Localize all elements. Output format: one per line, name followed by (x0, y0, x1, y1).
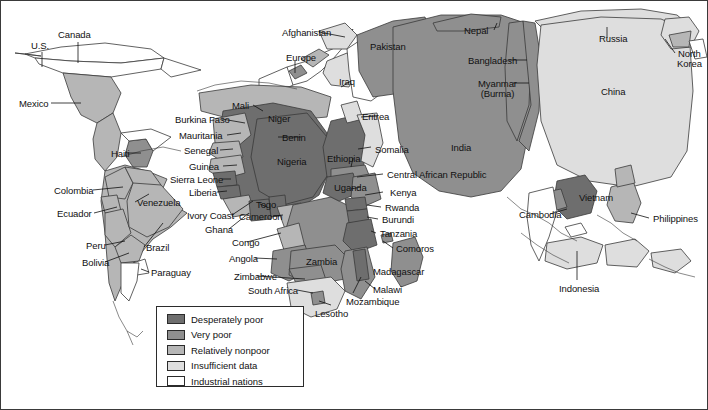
label-malawi: Malawi (373, 285, 402, 296)
label-venezuela: Venezuela (137, 198, 180, 209)
label-congo: Congo (232, 238, 260, 249)
legend-item-insufficient-data: Insufficient data (167, 359, 303, 374)
label-peru: Peru (86, 241, 106, 252)
legend-item-relatively-nonpoor: Relatively nonpoor (167, 343, 303, 358)
label-canada: Canada (58, 30, 91, 41)
label-zambia: Zambia (306, 257, 337, 268)
label-rwanda: Rwanda (385, 203, 419, 214)
label-angola: Angola (229, 254, 258, 265)
shape-rwanda (345, 197, 367, 211)
shape-us-tail (161, 58, 201, 77)
legend-label-industrial-nations: Industrial nations (191, 376, 263, 387)
label-pakistan: Pakistan (370, 42, 406, 53)
label-mexico: Mexico (19, 99, 49, 110)
legend-swatch-insufficient-data (167, 361, 185, 371)
cartogram-shapes (1, 1, 708, 410)
label-ethiopia: Ethiopia (327, 154, 361, 165)
shape-island-dots (565, 223, 587, 237)
label-somalia: Somalia (375, 145, 409, 156)
label-niger: Niger (268, 114, 290, 125)
label-indonesia: Indonesia (559, 284, 599, 295)
label-south-africa: South Africa (248, 286, 298, 297)
map-legend: Desperately poor Very poor Relatively no… (156, 306, 304, 387)
label-afghanistan: Afghanistan (282, 28, 331, 39)
label-north-korea: NorthKorea (677, 49, 702, 69)
label-mauritania: Mauritania (179, 131, 222, 142)
label-burundi: Burundi (382, 215, 414, 226)
label-benin: Benin (282, 133, 306, 144)
label-nepal: Nepal (464, 26, 488, 37)
shape-philippines-n (615, 165, 635, 187)
label-mali: Mali (232, 101, 249, 112)
legend-label-insufficient-data: Insufficient data (191, 360, 257, 371)
label-cameroon: Cameroon (239, 212, 283, 223)
legend-item-desperately-poor: Desperately poor (167, 312, 303, 327)
legend-item-industrial-nations: Industrial nations (167, 374, 303, 389)
label-brazil: Brazil (146, 243, 169, 254)
label-us: U.S. (31, 41, 49, 52)
label-eritrea: Eritrea (362, 112, 389, 123)
label-nigeria: Nigeria (277, 157, 306, 168)
label-comoros: Comoros (396, 244, 434, 255)
label-togo: Togo (256, 200, 276, 211)
label-europe: Europe (286, 53, 316, 64)
shape-indonesia-east (605, 239, 649, 267)
shape-indonesia (545, 237, 603, 269)
label-lesotho: Lesotho (315, 309, 348, 320)
label-colombia: Colombia (54, 186, 93, 197)
label-sierra-leone: Sierra Leone (170, 175, 223, 186)
label-ivory-coast: Ivory Coast (187, 211, 234, 222)
legend-swatch-desperately-poor (167, 314, 185, 324)
label-haiti: Haiti (111, 149, 130, 160)
shape-southern-cone (121, 263, 139, 301)
label-india: India (451, 143, 471, 154)
label-mozambique: Mozambique (346, 297, 399, 308)
label-bangladesh: Bangladesh (468, 56, 517, 67)
label-paraguay: Paraguay (151, 268, 191, 279)
shape-lesotho (311, 291, 325, 305)
world-poverty-cartogram: U.S. Canada Mexico Haiti Colombia Venezu… (0, 0, 708, 410)
label-vietnam: Vietnam (579, 193, 613, 204)
label-senegal: Senegal (184, 146, 218, 157)
legend-item-very-poor: Very poor (167, 328, 303, 343)
label-iraq: Iraq (339, 77, 355, 88)
legend-swatch-industrial-nations (167, 376, 185, 386)
label-central-african-republic: Central African Republic (387, 170, 487, 181)
label-philippines: Philippines (653, 214, 698, 225)
label-bolivia: Bolivia (82, 258, 109, 269)
label-cambodia: Cambodia (519, 210, 562, 221)
shape-brazil (127, 183, 183, 237)
label-liberia: Liberia (189, 188, 217, 199)
label-burkina-faso: Burkina Faso (175, 115, 230, 126)
legend-label-very-poor: Very poor (191, 329, 232, 340)
label-russia: Russia (599, 34, 627, 45)
label-kenya: Kenya (390, 188, 416, 199)
label-tanzania: Tanzania (380, 229, 417, 240)
label-ghana: Ghana (205, 225, 233, 236)
label-china: China (601, 87, 625, 98)
legend-label-desperately-poor: Desperately poor (191, 314, 263, 325)
legend-swatch-very-poor (167, 330, 185, 340)
label-zimbabwe: Zimbabwe (234, 272, 277, 283)
label-madagascar: Madagascar (373, 267, 424, 278)
legend-label-relatively-nonpoor: Relatively nonpoor (191, 345, 270, 356)
label-myanmar: Myanmar(Burma) (478, 79, 517, 99)
label-ecuador: Ecuador (57, 209, 92, 220)
label-uganda: Uganda (334, 183, 367, 194)
label-guinea: Guinea (189, 162, 219, 173)
legend-swatch-relatively-nonpoor (167, 345, 185, 355)
